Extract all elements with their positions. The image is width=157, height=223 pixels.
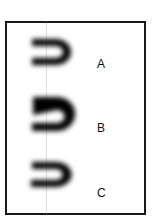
shape-c [26, 152, 88, 199]
reversed-c-glyph-icon [26, 28, 88, 76]
figure-panel: A B C [0, 0, 157, 223]
shape-label-c: C [97, 187, 106, 199]
shape-label-a: A [97, 58, 105, 70]
shape-a [26, 28, 88, 76]
shape-label-b: B [97, 122, 105, 134]
reversed-c-glyph-small-icon [26, 152, 88, 199]
shape-b [26, 89, 88, 143]
s-shaped-glyph-icon [26, 89, 88, 143]
